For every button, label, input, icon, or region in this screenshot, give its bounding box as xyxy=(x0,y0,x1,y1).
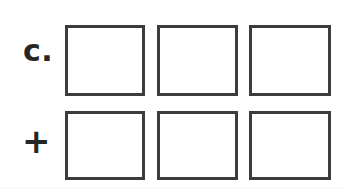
answer-box-row2-col2[interactable] xyxy=(157,111,238,180)
plus-icon: + xyxy=(22,124,51,158)
worksheet-exercise: c. + xyxy=(0,0,344,196)
answer-box-row1-col1[interactable] xyxy=(65,25,145,96)
answer-box-row2-col3[interactable] xyxy=(249,111,331,180)
exercise-item-label-c: c. xyxy=(23,36,53,66)
answer-box-row2-col1[interactable] xyxy=(65,111,145,180)
answer-box-row1-col3[interactable] xyxy=(249,25,331,96)
scan-artifact-line xyxy=(0,187,344,189)
answer-box-row1-col2[interactable] xyxy=(157,25,238,96)
